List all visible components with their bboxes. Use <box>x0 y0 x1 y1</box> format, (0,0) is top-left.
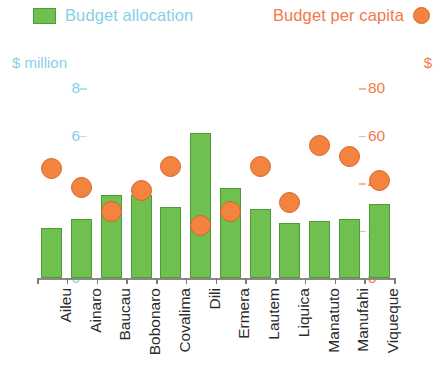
dot-aileu <box>41 158 62 179</box>
dot-manufahi <box>339 146 360 167</box>
category-label-dili: Dili <box>207 288 223 310</box>
chart-legend: Budget allocation Budget per capita <box>0 0 446 34</box>
category-label-bobonaro: Bobonaro <box>147 288 163 355</box>
bar-ainaro <box>71 219 92 278</box>
x-axis-tick-mark <box>216 278 218 284</box>
bar-manatuto <box>309 221 330 278</box>
category-label-lautem: Lautem <box>266 288 282 340</box>
plot-area <box>37 88 394 278</box>
bar-viqueque <box>369 204 390 278</box>
legend-item-budget-per-capita: Budget per capita <box>273 6 430 25</box>
x-axis-tick-mark <box>37 278 39 284</box>
category-label-liquica: Liquica <box>296 288 312 337</box>
dot-bobonaro <box>131 180 152 201</box>
category-label-covalima: Covalima <box>177 288 193 353</box>
budget-chart: Budget allocation Budget per capita $ mi… <box>0 0 446 370</box>
dot-baucau <box>101 201 122 222</box>
category-label-manufahi: Manufahi <box>355 288 371 352</box>
legend-label-budget-allocation: Budget allocation <box>65 6 193 25</box>
bar-bobonaro <box>131 195 152 278</box>
x-axis-tick-mark <box>126 278 128 284</box>
legend-item-budget-allocation: Budget allocation <box>33 6 193 25</box>
left-axis-title: $ million <box>12 54 67 71</box>
dot-ermera <box>220 201 241 222</box>
x-axis-tick-mark <box>67 278 69 284</box>
x-axis-tick-mark <box>186 278 188 284</box>
dot-lautem <box>250 156 271 177</box>
x-axis-tick-mark <box>275 278 277 284</box>
category-labels: AileuAinaroBaucauBobonaroCovalimaDiliErm… <box>37 288 394 370</box>
x-axis-tick-mark <box>394 278 396 284</box>
dot-manatuto <box>309 135 330 156</box>
category-label-baucau: Baucau <box>117 288 133 341</box>
x-axis-tick-mark <box>335 278 337 284</box>
dot-covalima <box>160 156 181 177</box>
right-axis-title: $ <box>424 54 432 71</box>
x-axis-tick-mark <box>245 278 247 284</box>
bar-covalima <box>160 207 181 278</box>
bar-dili <box>190 133 211 278</box>
green-square-swatch-icon <box>33 8 56 24</box>
orange-circle-swatch-icon <box>413 7 430 24</box>
dot-ainaro <box>71 177 92 198</box>
bar-liquica <box>279 223 300 278</box>
category-label-ermera: Ermera <box>236 288 252 339</box>
category-label-ainaro: Ainaro <box>88 288 104 333</box>
legend-label-budget-per-capita: Budget per capita <box>273 6 404 25</box>
category-label-manatuto: Manatuto <box>326 288 342 353</box>
x-axis-tick-mark <box>97 278 99 284</box>
dot-viqueque <box>369 170 390 191</box>
category-label-aileu: Aileu <box>58 288 74 322</box>
x-axis-tick-mark <box>364 278 366 284</box>
bar-aileu <box>41 228 62 278</box>
dot-liquica <box>279 192 300 213</box>
category-label-viqueque: Viqueque <box>385 288 401 353</box>
x-axis-tick-mark <box>156 278 158 284</box>
bar-lautem <box>250 209 271 278</box>
bar-manufahi <box>339 219 360 278</box>
x-axis-tick-mark <box>305 278 307 284</box>
